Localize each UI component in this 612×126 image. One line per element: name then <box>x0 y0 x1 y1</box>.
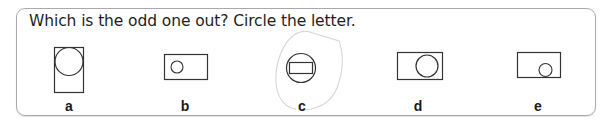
figure-d[interactable] <box>398 53 443 80</box>
option-label-e[interactable]: e <box>528 98 548 114</box>
figure-c[interactable] <box>287 54 316 83</box>
figure-a[interactable] <box>55 48 84 93</box>
figure-b[interactable] <box>165 55 208 80</box>
option-label-d[interactable]: d <box>408 98 428 114</box>
figure-e[interactable] <box>518 53 561 78</box>
option-label-b[interactable]: b <box>175 98 195 114</box>
option-label-a[interactable]: a <box>59 98 79 114</box>
option-label-c[interactable]: c <box>292 98 312 114</box>
